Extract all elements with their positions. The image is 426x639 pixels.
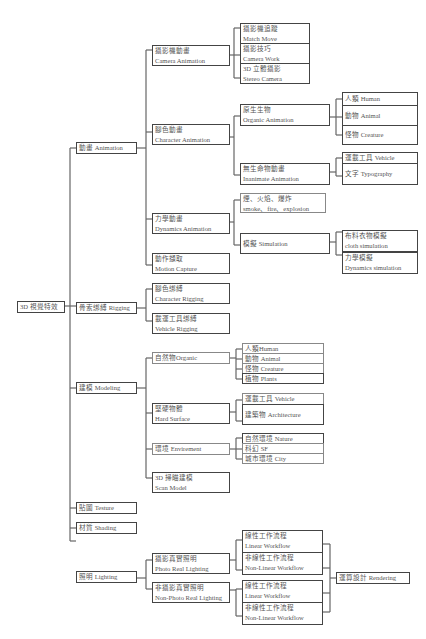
node-character-animation: 腳色動畫 Character Animation [152, 124, 230, 145]
node-stereo-camera: 3D 立體攝影 Stereo Camera [240, 63, 310, 84]
node-model-architecture: 建築物 Architecture [242, 404, 324, 425]
node-camera-work: 攝影技巧 Camera Work [240, 43, 310, 64]
node-rigging: 骨索綁縛 Rigging [76, 302, 137, 314]
node-photo-nonlinear-workflow: 非線性工作流程 Non-Linear Workflow [242, 552, 323, 575]
node-animal: 動物 Animal [342, 105, 418, 126]
node-creature: 怪物 Creature [342, 125, 418, 145]
node-cloth-simulation: 布料衣物模擬 cloth simulation [342, 230, 418, 252]
node-nonphoto-linear-workflow: 線性工作流程 Linear Workflow [242, 580, 323, 603]
node-camera-animation: 攝影機動畫 Camera Animation [152, 45, 230, 66]
node-character-rigging: 腳色綁縛 Character Rigging [152, 283, 230, 304]
node-modeling-organic: 自然物Organic [152, 352, 230, 364]
node-model-plants: 植物 Plants [242, 373, 324, 384]
node-dynamics-simulation: 力學模擬 Dynamics simulation [342, 252, 418, 274]
node-human: 人類 Human [342, 92, 418, 106]
root-label: 3D 視覺特效 [20, 302, 58, 312]
node-modeling: 建模 Modeling [76, 382, 137, 394]
node-photo-linear-workflow: 線性工作流程 Linear Workflow [242, 530, 323, 553]
root-node: 3D 視覺特效 [17, 301, 65, 313]
node-non-photo-real-lighting: 非攝影真實照明 Non-Photo Real Lighting [152, 582, 230, 603]
node-scan-model: 3D 掃瞄建模 Scan Model [152, 472, 230, 493]
node-organic-animation: 原生生物 Organic Animation [240, 104, 330, 126]
node-inanimate-animation: 無生命物動畫 Inanimate Animation [240, 163, 330, 185]
node-nonphoto-nonlinear-workflow: 非線性工作流程 Non-Linear Workflow [242, 602, 323, 625]
node-simulation: 模擬 Simulation [240, 233, 330, 254]
node-shading: 材質 Shading [76, 522, 137, 534]
node-vehicle-rigging: 載運工具綁縛 Vehicle Rigging [152, 313, 230, 334]
node-dynamics-animation: 力學動畫 Dynamics Animation [152, 213, 230, 234]
node-typography: 文字 Typography [342, 163, 418, 185]
node-photo-real-lighting: 攝影真實照明 Photo Real Lighting [152, 553, 230, 574]
node-lighting: 照明 Lighting [76, 571, 137, 583]
node-rendering: 運算設計 Rendering [336, 572, 410, 584]
node-smoke-fire-explosion: 煙、火焰、爆炸 smoke、fire、explosion [240, 193, 326, 213]
node-environment: 環境 Envirement [152, 443, 230, 455]
node-animation: 動畫 Animation [76, 142, 137, 154]
node-texture: 貼圖 Testure [76, 502, 137, 514]
node-match-move: 攝影機追蹤 Match Move [240, 23, 310, 44]
node-motion-capture: 動作擷取 Motion Capture [152, 253, 230, 274]
node-env-city: 城市環境 City [242, 453, 324, 464]
node-hard-surface: 堅硬物體 Hard Surface [152, 403, 230, 424]
